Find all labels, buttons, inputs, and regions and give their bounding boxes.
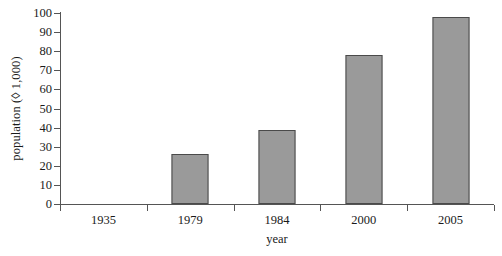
y-axis-tick-label: 20 [4,160,52,173]
bar[interactable] [345,55,382,204]
y-axis-tick-label: 100 [4,7,52,20]
x-axis-tick-label: 2005 [407,214,494,228]
x-axis-tick-label: 1935 [60,214,147,228]
y-axis-tick [54,166,60,167]
x-axis-tick [234,205,235,211]
x-axis-tick-label: 1984 [234,214,321,228]
y-axis-tick [54,185,60,186]
y-axis-tick-label: 30 [4,140,52,153]
bar-slot [60,13,147,204]
x-axis-tick-labels: 19351979198420002005 [60,214,494,234]
bar-slot [320,13,407,204]
y-axis-tick [54,128,60,129]
bar-slot [147,13,234,204]
y-axis-tick [54,147,60,148]
x-axis-tick [147,205,148,211]
y-axis-tick [54,51,60,52]
y-axis-tick-label: 50 [4,102,52,115]
bar-slot [234,13,321,204]
x-axis-tick [407,205,408,211]
x-axis-tick [320,205,321,211]
bar[interactable] [258,130,295,204]
y-axis-tick-label: 10 [4,179,52,192]
x-axis-tick [494,205,495,211]
y-axis-tick [54,70,60,71]
x-axis-title: year [60,232,494,247]
bar-chart-figure: population (◊ 1,000) 0102030405060708090… [0,0,502,256]
y-axis-tick-label: 70 [4,64,52,77]
y-axis-tick [54,32,60,33]
y-axis-tick-label: 80 [4,45,52,58]
y-axis-tick-label: 60 [4,83,52,96]
y-axis-tick-labels: 0102030405060708090100 [0,0,52,256]
x-axis-tick-label: 2000 [320,214,407,228]
x-axis-tick [60,205,61,211]
y-axis-tick [54,89,60,90]
y-axis-tick-label: 90 [4,26,52,39]
bar[interactable] [432,17,469,204]
x-axis-tick-label: 1979 [147,214,234,228]
bar[interactable] [172,154,209,204]
y-axis-tick-label: 0 [4,198,52,211]
y-axis-tick [54,13,60,14]
y-axis-tick [54,109,60,110]
y-axis-tick-label: 40 [4,121,52,134]
bar-slot [407,13,494,204]
